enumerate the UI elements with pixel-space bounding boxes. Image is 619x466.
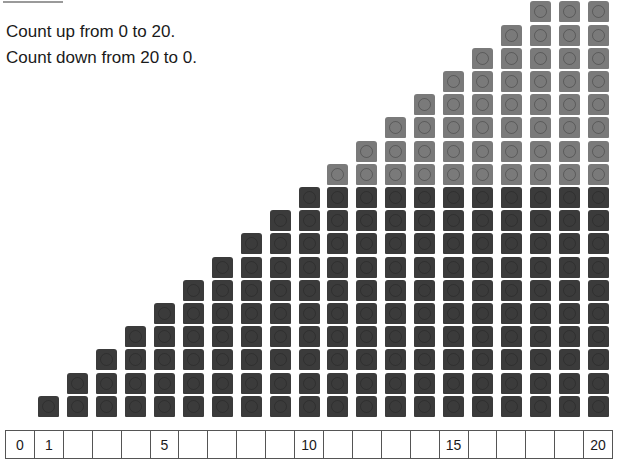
cube — [241, 257, 262, 278]
cube — [299, 326, 320, 347]
cube — [299, 257, 320, 278]
cube — [327, 210, 348, 231]
cube — [299, 303, 320, 324]
cube — [212, 396, 233, 417]
cube — [559, 164, 580, 185]
cube — [472, 280, 493, 301]
cube — [212, 373, 233, 394]
number-line: 015101520 — [5, 430, 613, 459]
cube — [443, 373, 464, 394]
number-cell-18 — [526, 431, 555, 458]
cube — [299, 187, 320, 208]
cube — [501, 303, 522, 324]
cube — [588, 396, 609, 417]
cube — [356, 210, 377, 231]
cube — [270, 280, 291, 301]
cube — [125, 373, 146, 394]
cube — [559, 303, 580, 324]
cube — [559, 141, 580, 162]
cube — [414, 257, 435, 278]
cube — [414, 233, 435, 254]
cube — [270, 257, 291, 278]
cube — [241, 280, 262, 301]
cube — [385, 373, 406, 394]
cube — [501, 141, 522, 162]
cube — [212, 257, 233, 278]
cube — [443, 141, 464, 162]
cube — [530, 25, 551, 46]
cube — [414, 280, 435, 301]
cube — [414, 210, 435, 231]
cube — [530, 303, 551, 324]
cube — [559, 71, 580, 92]
cube — [559, 257, 580, 278]
cube — [385, 210, 406, 231]
cube — [299, 233, 320, 254]
number-cell-11 — [324, 431, 353, 458]
cube — [501, 326, 522, 347]
cube — [588, 1, 609, 22]
cube — [327, 349, 348, 370]
cube — [241, 396, 262, 417]
cube — [530, 164, 551, 185]
cube — [299, 210, 320, 231]
cube — [385, 117, 406, 138]
cube — [588, 280, 609, 301]
cube — [501, 210, 522, 231]
cube — [356, 326, 377, 347]
cube-staircase — [0, 0, 619, 420]
cube — [472, 326, 493, 347]
cube — [443, 164, 464, 185]
cube — [67, 373, 88, 394]
cube — [588, 257, 609, 278]
cube — [385, 141, 406, 162]
cube — [96, 396, 117, 417]
cube — [385, 326, 406, 347]
cube — [501, 94, 522, 115]
cube — [530, 349, 551, 370]
cube — [472, 94, 493, 115]
cube — [588, 303, 609, 324]
cube — [212, 280, 233, 301]
number-cell-6 — [179, 431, 208, 458]
cube — [501, 117, 522, 138]
cube — [501, 164, 522, 185]
cube — [270, 349, 291, 370]
cube — [183, 396, 204, 417]
cube — [241, 349, 262, 370]
cube — [96, 349, 117, 370]
cube — [443, 349, 464, 370]
cube — [559, 349, 580, 370]
cube — [327, 257, 348, 278]
cube — [327, 187, 348, 208]
number-cell-17 — [497, 431, 526, 458]
cube — [530, 326, 551, 347]
cube — [443, 71, 464, 92]
number-cell-3 — [93, 431, 122, 458]
cube — [183, 326, 204, 347]
cube — [327, 303, 348, 324]
number-cell-19 — [555, 431, 584, 458]
cube — [299, 373, 320, 394]
cube — [588, 141, 609, 162]
number-cell-16 — [469, 431, 498, 458]
cube — [270, 303, 291, 324]
cube — [270, 210, 291, 231]
number-cell-14 — [411, 431, 440, 458]
cube — [299, 349, 320, 370]
cube — [443, 303, 464, 324]
cube — [183, 373, 204, 394]
cube — [472, 349, 493, 370]
cube — [588, 233, 609, 254]
cube — [212, 303, 233, 324]
cube — [559, 396, 580, 417]
cube — [385, 280, 406, 301]
cube — [154, 303, 175, 324]
cube — [443, 326, 464, 347]
cube — [588, 187, 609, 208]
cube — [385, 233, 406, 254]
cube — [327, 280, 348, 301]
cube — [154, 396, 175, 417]
cube — [241, 326, 262, 347]
cube — [414, 94, 435, 115]
